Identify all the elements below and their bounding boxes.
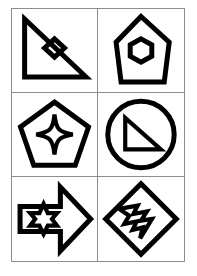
hexagon-icon: [130, 39, 152, 62]
cell-3-figure: [12, 93, 97, 176]
lightning-bolt-icon: [119, 206, 152, 239]
grid-cell-1[interactable]: [12, 9, 98, 93]
right-triangle-icon: [125, 118, 161, 150]
page-root: [0, 0, 197, 276]
grid-cell-3[interactable]: [12, 93, 98, 177]
arrow-right-icon: [20, 187, 91, 251]
cell-4-figure: [98, 93, 184, 176]
four-pointed-star-icon: [36, 115, 73, 155]
grid-cell-2[interactable]: [98, 9, 184, 93]
right-triangle-icon: [25, 19, 86, 77]
elongated-pentagon-icon: [116, 16, 169, 82]
grid-cell-6[interactable]: [98, 177, 184, 261]
cell-6-figure: [98, 177, 184, 261]
grid-cell-5[interactable]: [12, 177, 98, 261]
cell-5-figure: [12, 177, 97, 261]
cell-2-figure: [98, 9, 184, 92]
cell-1-figure: [12, 9, 97, 92]
pentagon-icon: [20, 102, 88, 165]
shape-grid: [11, 8, 185, 262]
grid-cell-4[interactable]: [98, 93, 184, 177]
